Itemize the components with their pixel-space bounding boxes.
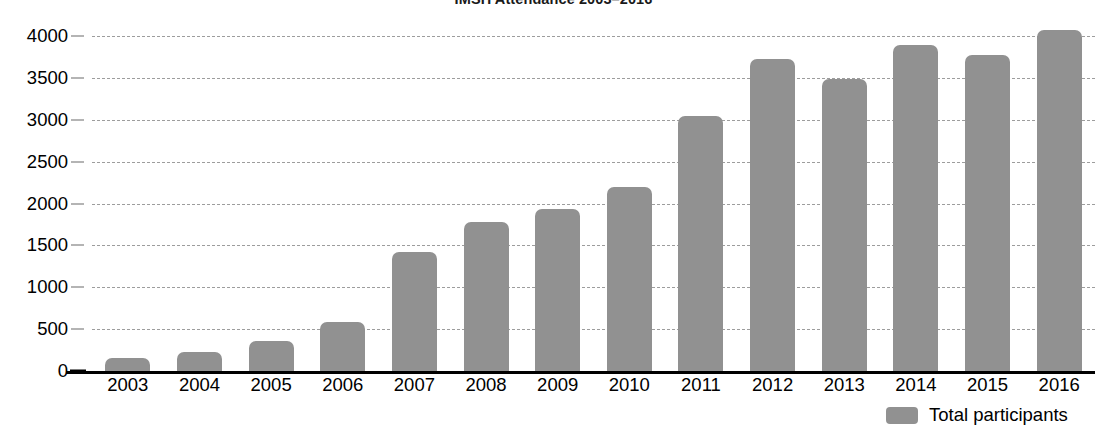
y-axis-tick-label-500: 500 xyxy=(37,318,68,340)
legend-label-total-participants: Total participants xyxy=(929,404,1068,426)
gridline-4000 xyxy=(92,36,1095,38)
y-axis-tick-label-1000: 1000 xyxy=(27,276,68,298)
y-axis-tick-mark-2500 xyxy=(71,161,84,162)
plot-area xyxy=(92,36,1095,371)
y-axis-tick-label-1500: 1500 xyxy=(27,234,68,256)
x-axis-tick-label-2007: 2007 xyxy=(394,374,435,396)
x-axis-tick-label-2012: 2012 xyxy=(752,374,793,396)
y-axis-tick-label-2500: 2500 xyxy=(27,151,68,173)
scan-edge-band xyxy=(0,428,1107,442)
chart-title: IMSH Attendance 2003–2016 xyxy=(0,0,1107,7)
bar-2009 xyxy=(535,209,580,371)
bar-2008 xyxy=(464,222,509,371)
x-axis-tick-label-2004: 2004 xyxy=(179,374,220,396)
y-axis-tick-mark-3500 xyxy=(71,77,84,78)
gridline-3000 xyxy=(92,120,1095,122)
gridline-2000 xyxy=(92,204,1095,206)
x-axis-tick-label-2009: 2009 xyxy=(537,374,578,396)
bar-2015 xyxy=(965,55,1010,371)
gridline-3500 xyxy=(92,78,1095,80)
y-axis-tick-mark-2000 xyxy=(71,203,84,204)
bar-2011 xyxy=(678,116,723,371)
y-axis-tick-label-4000: 4000 xyxy=(27,25,68,47)
x-axis-tick-label-2014: 2014 xyxy=(895,374,936,396)
bar-2012 xyxy=(750,59,795,371)
gridline-2500 xyxy=(92,162,1095,164)
bar-2004 xyxy=(177,352,222,371)
x-axis-tick-label-2013: 2013 xyxy=(824,374,865,396)
y-axis-tick-mark-3000 xyxy=(71,119,84,120)
x-axis-tick-label-2008: 2008 xyxy=(465,374,506,396)
y-axis: 05001000150020002500300035004000 xyxy=(0,0,92,442)
x-axis-tick-label-2016: 2016 xyxy=(1039,374,1080,396)
y-axis-tick-label-3000: 3000 xyxy=(27,109,68,131)
x-axis-tick-label-2003: 2003 xyxy=(107,374,148,396)
chart-legend: Total participants xyxy=(886,404,1068,426)
x-axis-tick-label-2011: 2011 xyxy=(681,374,721,396)
y-axis-tick-mark-1000 xyxy=(71,287,84,288)
y-axis-tick-mark-1500 xyxy=(71,245,84,246)
bar-chart: IMSH Attendance 2003–2016 05001000150020… xyxy=(0,0,1107,442)
y-axis-tick-label-3500: 3500 xyxy=(27,67,68,89)
bar-2005 xyxy=(249,341,294,371)
x-axis-tick-label-2005: 2005 xyxy=(251,374,292,396)
x-axis-labels: 2003200420052006200720082009201020112012… xyxy=(92,374,1095,404)
bar-2014 xyxy=(893,45,938,371)
bar-2003 xyxy=(105,358,150,371)
bar-2010 xyxy=(607,187,652,371)
legend-swatch-total-participants xyxy=(886,407,918,424)
gridline-1500 xyxy=(92,245,1095,247)
x-axis-tick-label-2010: 2010 xyxy=(609,374,650,396)
bar-2013 xyxy=(822,79,867,371)
x-axis-tick-label-2006: 2006 xyxy=(322,374,363,396)
bar-2016 xyxy=(1037,30,1082,371)
bar-2006 xyxy=(320,322,365,371)
y-axis-tick-mark-4000 xyxy=(71,36,84,37)
x-axis-tick-label-2015: 2015 xyxy=(967,374,1008,396)
y-axis-tick-label-2000: 2000 xyxy=(27,193,68,215)
y-axis-tick-mark-500 xyxy=(71,329,84,330)
bar-2007 xyxy=(392,252,437,371)
gridline-1000 xyxy=(92,287,1095,289)
gridline-500 xyxy=(92,329,1095,331)
